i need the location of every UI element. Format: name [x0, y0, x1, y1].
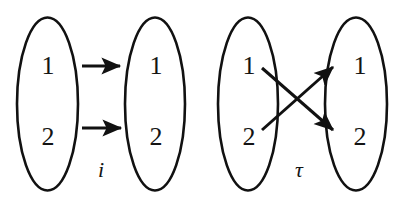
- codomain-set-ellipse: [125, 18, 185, 191]
- domain-set-ellipse: [17, 18, 78, 191]
- transposition-map-diagram: 1 2 1 2 τ: [218, 18, 387, 191]
- codomain-set-ellipse: [325, 18, 387, 191]
- domain-element-1: 1: [243, 51, 256, 80]
- codomain-element-2: 2: [354, 122, 367, 151]
- identity-map-label: i: [98, 157, 104, 182]
- domain-set-ellipse: [218, 18, 278, 191]
- transposition-map-label: τ: [295, 157, 304, 182]
- identity-map-diagram: 1 2 1 2 i: [17, 18, 185, 191]
- codomain-element-1: 1: [354, 51, 367, 80]
- codomain-element-2: 2: [150, 122, 163, 151]
- codomain-element-1: 1: [150, 51, 163, 80]
- domain-element-2: 2: [42, 122, 55, 151]
- domain-element-2: 2: [243, 122, 256, 151]
- permutation-diagram-figure: 1 2 1 2 i 1 2 1 2: [0, 0, 400, 207]
- domain-element-1: 1: [42, 51, 55, 80]
- figure-canvas: 1 2 1 2 i 1 2 1 2: [0, 0, 400, 207]
